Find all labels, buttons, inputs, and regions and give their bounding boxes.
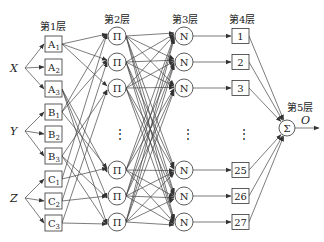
svg-text:N: N	[180, 191, 189, 202]
layer4-node-26: 26	[232, 189, 249, 204]
svg-text:1: 1	[237, 31, 243, 42]
edge	[126, 39, 174, 222]
svg-text:B: B	[48, 107, 55, 118]
layer1-node-c3: C3	[45, 215, 62, 231]
layer3-normalize-node: N	[175, 53, 193, 71]
diagram-svg: A1A2A3B1B2B3C1C2C3ΠΠΠΠΠΠNNNNNN123252627Σ…	[0, 0, 324, 242]
edge	[249, 135, 281, 170]
svg-text:1: 1	[56, 179, 60, 187]
layer1-node-a2: A2	[45, 59, 62, 75]
svg-text:Π: Π	[113, 31, 122, 42]
svg-text:Π: Π	[113, 165, 122, 176]
layer4-node-27: 27	[232, 215, 249, 230]
svg-text:2: 2	[56, 67, 60, 75]
svg-text:N: N	[180, 57, 189, 68]
edge	[126, 222, 174, 225]
layer2-product-node: Π	[108, 161, 126, 179]
layer2-product-node: Π	[108, 187, 126, 205]
input-z: Z	[9, 192, 18, 205]
layer2-product-node: Π	[108, 27, 126, 45]
edge	[62, 60, 107, 112]
edge	[25, 67, 44, 68]
svg-text:N: N	[180, 165, 189, 176]
layer2-label: 第2层	[104, 13, 130, 25]
output-label: O	[301, 114, 310, 127]
edges	[25, 33, 319, 225]
ellipsis-layer4: ⋮	[238, 127, 250, 141]
svg-text:N: N	[180, 31, 189, 42]
edge	[62, 112, 107, 168]
edge	[25, 179, 44, 198]
svg-text:1: 1	[56, 112, 60, 120]
layer3-normalize-node: N	[175, 161, 193, 179]
edge	[25, 44, 44, 68]
svg-text:Π: Π	[113, 57, 122, 68]
layer1-label: 第1层	[40, 20, 66, 32]
ellipsis-layer3: ⋮	[182, 127, 194, 141]
layer4-node-1: 1	[232, 29, 249, 44]
layer5-sum-node: Σ	[279, 120, 295, 136]
layer2-product-node: Π	[108, 79, 126, 97]
edge	[126, 33, 174, 36]
layer4-node-25: 25	[232, 163, 249, 178]
edge	[25, 112, 44, 131]
svg-text:2: 2	[56, 134, 60, 142]
svg-text:25: 25	[234, 165, 247, 176]
svg-text:N: N	[180, 83, 189, 94]
svg-text:2: 2	[56, 201, 60, 209]
edge	[249, 36, 284, 120]
svg-text:3: 3	[56, 223, 60, 231]
layer3-normalize-node: N	[175, 27, 193, 45]
edge	[25, 198, 44, 201]
layer2-product-node: Π	[108, 213, 126, 231]
svg-text:3: 3	[56, 89, 60, 97]
edge	[25, 131, 44, 134]
edge	[25, 131, 44, 156]
layer1-node-a3: A3	[45, 81, 62, 97]
svg-text:1: 1	[56, 44, 60, 52]
edge	[62, 196, 107, 201]
layer4-node-3: 3	[232, 81, 249, 96]
svg-text:27: 27	[234, 217, 247, 228]
layer3-normalize-node: N	[175, 213, 193, 231]
svg-text:N: N	[180, 217, 189, 228]
edge	[25, 68, 44, 89]
svg-text:3: 3	[237, 83, 243, 94]
layer1-node-b1: B1	[45, 104, 62, 120]
svg-text:Π: Π	[113, 217, 122, 228]
edge	[25, 198, 44, 223]
layer1-node-b3: B3	[45, 148, 62, 164]
ellipsis-layer2: ⋮	[114, 127, 126, 141]
anfis-diagram: A1A2A3B1B2B3C1C2C3ΠΠΠΠΠΠNNNNNN123252627Σ…	[0, 0, 324, 242]
svg-text:2: 2	[237, 57, 243, 68]
edge	[126, 34, 174, 62]
layer2-product-node: Π	[108, 53, 126, 71]
input-x: X	[9, 62, 19, 75]
layer1-node-b2: B2	[45, 126, 62, 142]
layer3-normalize-node: N	[175, 79, 193, 97]
edge	[62, 34, 107, 44]
layer4-label: 第4层	[229, 13, 255, 25]
svg-text:Π: Π	[113, 191, 122, 202]
svg-text:3: 3	[56, 156, 60, 164]
svg-text:B: B	[48, 151, 55, 162]
layer4-node-2: 2	[232, 55, 249, 70]
svg-text:Π: Π	[113, 83, 122, 94]
edge	[62, 62, 107, 201]
edge	[62, 44, 107, 86]
layer5-label: 第5层	[287, 101, 313, 113]
edge	[249, 88, 281, 121]
svg-text:26: 26	[234, 191, 247, 202]
edge	[126, 65, 174, 222]
edge	[249, 62, 283, 120]
edge	[249, 136, 284, 222]
edge	[249, 136, 283, 196]
edge	[62, 156, 107, 224]
layer3-label: 第3层	[172, 13, 198, 25]
svg-text:B: B	[48, 129, 55, 140]
layer1-node-c1: C1	[45, 171, 62, 187]
edge	[126, 196, 174, 224]
svg-text:Σ: Σ	[283, 123, 290, 134]
layer3-normalize-node: N	[175, 187, 193, 205]
edge	[62, 223, 107, 224]
